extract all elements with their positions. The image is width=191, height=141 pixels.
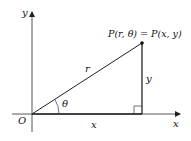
angle-label: θ <box>62 98 68 109</box>
hypotenuse <box>32 43 142 114</box>
vertical-label: y <box>145 73 152 84</box>
x-axis-label: x <box>173 118 179 129</box>
point-label: P(r, θ) = P(x, y) <box>107 28 182 39</box>
polar-diagram: y x O P(r, θ) = P(x, y) r y x θ <box>0 0 191 141</box>
y-axis-label: y <box>21 7 28 18</box>
hypotenuse-label: r <box>85 63 91 74</box>
horizontal-label: x <box>91 119 97 130</box>
origin-label: O <box>18 115 26 126</box>
angle-arc <box>55 100 59 115</box>
right-angle-marker <box>134 106 142 114</box>
point-p <box>140 41 144 45</box>
